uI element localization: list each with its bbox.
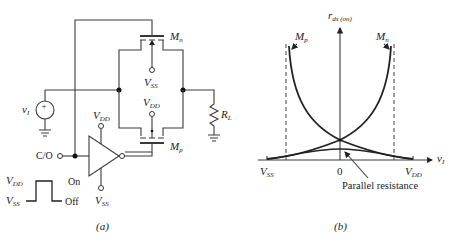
y-axis-label: rds (on)	[328, 9, 353, 23]
mp-source-wire	[119, 90, 141, 136]
control-node	[73, 154, 78, 159]
source-plus-icon: +	[42, 101, 47, 111]
output-wire	[183, 90, 214, 100]
ground-icon	[208, 135, 220, 141]
inverter-vss-terminal	[99, 186, 104, 191]
vdd-label-mp: VDD	[143, 96, 160, 110]
figure-canvas: VSS Mn RL VDD Mp + vI C/O	[0, 0, 453, 243]
mp-body-dot	[151, 130, 154, 133]
mn-source-wire	[119, 40, 141, 90]
gate-wire-p	[125, 143, 152, 152]
mn-body-arrow-icon	[149, 40, 155, 45]
tick-vss-label: VSS	[260, 165, 274, 179]
input-label: vI	[22, 103, 30, 117]
tick-vdd-label: VDD	[405, 165, 422, 179]
tick-zero-label: 0	[337, 165, 343, 177]
mp-label: Mp	[169, 140, 183, 154]
x-axis-label: vI	[437, 152, 445, 166]
vss-terminal-mn	[150, 68, 155, 73]
mn-curve-label: Mn	[375, 30, 389, 44]
parallel-resistance-label: Parallel resistance	[342, 180, 418, 191]
inverter-output-wire	[125, 152, 153, 156]
mp-pointer-icon	[292, 44, 297, 49]
control-label[interactable]: C/O	[36, 150, 53, 161]
vdd-terminal-mp	[150, 112, 155, 117]
ground-icon	[39, 130, 51, 136]
caption-a: (a)	[96, 220, 109, 233]
mn-label: Mn	[169, 30, 183, 44]
on-label: On	[68, 176, 80, 187]
load-label: RL	[220, 108, 232, 122]
inverter-vdd-label: VDD	[93, 109, 110, 123]
intersection-point	[339, 139, 342, 142]
circuit-diagram: VSS Mn RL VDD Mp + vI C/O	[6, 20, 232, 233]
load-resistor	[210, 100, 218, 135]
mp-drain-wire	[163, 90, 183, 136]
parallel-pointer-icon	[345, 152, 368, 178]
off-label: Off	[65, 196, 79, 207]
inverter-bubble	[120, 154, 125, 159]
control-terminal[interactable]	[58, 154, 63, 159]
pulse-low-label: VSS	[6, 194, 20, 208]
caption-b: (b)	[334, 220, 347, 233]
vss-label-mn: VSS	[144, 76, 158, 90]
pulse-waveform	[26, 181, 62, 201]
inverter	[89, 136, 119, 176]
mp-curve-label: Mp	[294, 30, 308, 44]
inverter-vdd-terminal	[99, 124, 104, 129]
inverter-vss-label: VSS	[95, 194, 109, 208]
resistance-graph: rds (on) vI Mp Mn VSS 0 VDD Parallel res…	[258, 9, 445, 233]
pulse-high-label: VDD	[6, 174, 23, 188]
mn-pointer-icon	[384, 44, 389, 49]
mn-drain-wire	[163, 40, 183, 90]
